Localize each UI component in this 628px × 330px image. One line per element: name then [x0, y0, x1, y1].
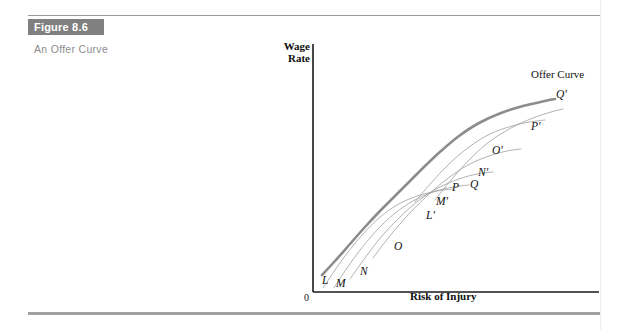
offer-curve-annotation: Offer Curve — [531, 68, 584, 80]
point-label-q: Q — [470, 178, 478, 190]
point-label-oprime: O' — [492, 144, 503, 156]
point-label-lprime: L' — [426, 209, 435, 221]
point-label-o: O — [394, 240, 402, 252]
point-label-m: M — [336, 277, 346, 289]
chart-axes — [313, 44, 599, 292]
point-label-l: L — [322, 274, 328, 286]
point-label-n: N — [360, 265, 368, 277]
offer-curve-path — [322, 99, 555, 275]
point-label-p: P — [452, 181, 459, 193]
bottom-divider-rule — [28, 312, 600, 315]
point-label-pprime: P' — [531, 120, 540, 132]
chart-curves — [322, 99, 563, 288]
point-label-nprime: N' — [478, 166, 488, 178]
point-label-mprime: M' — [436, 195, 448, 207]
point-label-qprime: Q' — [556, 88, 567, 100]
figure-number-tag: Figure 8.6 — [28, 19, 104, 35]
figure-page: Figure 8.6 An Offer Curve WageRate Risk … — [0, 0, 628, 330]
figure-caption: An Offer Curve — [34, 43, 108, 55]
top-divider-rule — [28, 15, 600, 16]
